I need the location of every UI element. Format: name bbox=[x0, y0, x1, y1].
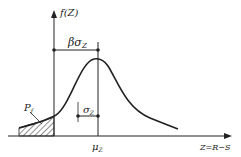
reliability-diagram: f(Z) βσZ σZ Pf μZ Z=R−S bbox=[0, 0, 241, 157]
x-axis-arrow-icon bbox=[224, 133, 232, 139]
mean-label: μZ bbox=[92, 141, 104, 153]
failure-probability-label: Pf bbox=[23, 102, 35, 115]
y-axis-arrow-icon bbox=[51, 10, 57, 18]
sigma-start-dot bbox=[76, 114, 80, 118]
y-axis-label: f(Z) bbox=[59, 7, 79, 18]
sigma-label: σZ bbox=[83, 104, 95, 116]
beta-sigma-label: βσZ bbox=[67, 36, 87, 50]
sigma-end-dot bbox=[96, 114, 100, 118]
x-axis-label: Z=R−S bbox=[199, 143, 231, 152]
beta-end-dot bbox=[96, 48, 100, 52]
beta-start-dot bbox=[52, 48, 56, 52]
